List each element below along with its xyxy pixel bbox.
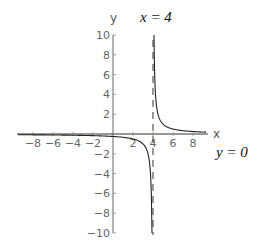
curves [18,35,206,235]
x-axis-label: x [213,127,220,141]
y-tick-label: 8 [103,49,110,62]
x-tick-label: −6 [45,137,61,150]
x-tick-label: −4 [65,137,81,150]
axes [17,35,208,233]
y-tick-label: −10 [87,227,110,240]
x-tick-label: −8 [25,137,41,150]
y-tick-label: 10 [96,29,110,42]
y-tick-label: 6 [103,69,110,82]
y-tick-label: −6 [94,187,110,200]
x-tick-label: 8 [190,137,197,150]
y-tick-label: 4 [103,88,110,101]
y-tick-label: −4 [94,168,110,181]
horizontal-asymptote-label: y = 0 [214,144,248,160]
y-tick-label: −8 [94,207,110,220]
vertical-asymptote-label: x = 4 [139,9,172,25]
function-plot: −8−6−4−22468−10−8−6−4−2246810 y x x = 4 … [0,0,257,250]
right-branch-curve [154,35,206,132]
y-tick-label: 2 [103,108,110,121]
x-tick-label: 6 [170,137,177,150]
y-axis-label: y [110,11,117,25]
y-tick-label: −2 [94,148,110,161]
